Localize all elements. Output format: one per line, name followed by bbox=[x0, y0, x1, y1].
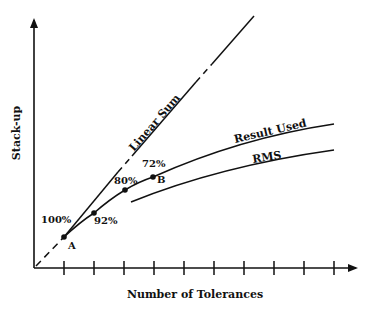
point-b bbox=[150, 174, 156, 180]
label-92-percent: 92% bbox=[94, 215, 118, 226]
label-linear-sum: Linear Sum bbox=[126, 91, 183, 154]
point-80 bbox=[122, 187, 128, 193]
label-point-b: B bbox=[157, 174, 165, 185]
y-axis-title: Stack-up bbox=[10, 106, 23, 161]
label-rms: RMS bbox=[251, 149, 282, 166]
label-72-percent: 72% bbox=[142, 158, 166, 169]
point-a bbox=[61, 234, 67, 240]
label-100-percent: 100% bbox=[41, 214, 72, 225]
linear-sum-solid-3 bbox=[212, 16, 254, 64]
linear-sum-dashed-3 bbox=[196, 64, 212, 82]
linear-sum-dashed-1 bbox=[36, 237, 64, 266]
stackup-diagram: 100% A 92% 80% 72% B Linear Sum Result U… bbox=[0, 0, 373, 315]
linear-sum-solid-1 bbox=[64, 172, 118, 237]
label-point-a: A bbox=[67, 240, 76, 251]
label-80-percent: 80% bbox=[114, 175, 138, 186]
x-axis-title: Number of Tolerances bbox=[127, 288, 263, 301]
linear-sum-dashed-2 bbox=[118, 156, 132, 172]
label-result-used: Result Used bbox=[233, 117, 308, 146]
